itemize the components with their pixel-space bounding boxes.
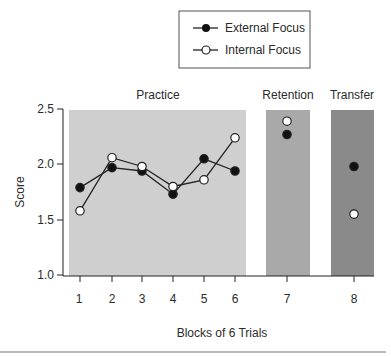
x-tick-label: 1 [76, 292, 83, 306]
y-tick-label: 2.0 [37, 157, 54, 171]
x-tick-label: 7 [284, 292, 291, 306]
data-point-internal [169, 182, 177, 190]
legend-box [179, 11, 310, 68]
data-point-external [231, 167, 239, 175]
panel-transfer [331, 110, 374, 276]
data-point-internal [283, 117, 291, 125]
y-tick-label: 2.5 [37, 102, 54, 116]
filled-circle-icon [202, 24, 210, 32]
x-tick-label: 8 [351, 292, 358, 306]
data-point-internal [231, 134, 239, 142]
data-point-internal [200, 176, 208, 184]
data-point-external [200, 155, 208, 163]
chart: External Focus Internal Focus Practice R… [0, 0, 391, 356]
x-tick-label: 5 [201, 292, 208, 306]
data-point-internal [76, 207, 84, 215]
y-tick-label: 1.5 [37, 213, 54, 227]
x-axis: 1 2 3 4 5 6 7 8 Blocks of 6 Trials [63, 276, 374, 340]
data-point-internal [350, 210, 358, 218]
legend-label-internal: Internal Focus [225, 43, 301, 57]
phase-label-practice: Practice [136, 88, 180, 102]
y-axis-label: Score [13, 176, 27, 208]
data-point-external [108, 164, 116, 172]
x-tick-label: 2 [109, 292, 116, 306]
legend-label-external: External Focus [225, 21, 305, 35]
x-tick-label: 3 [139, 292, 146, 306]
data-point-external [283, 130, 291, 138]
legend: External Focus Internal Focus [179, 11, 310, 68]
x-tick-label: 4 [170, 292, 177, 306]
open-circle-icon [202, 46, 210, 54]
phase-label-retention: Retention [262, 88, 313, 102]
y-tick-label: 1.0 [37, 268, 54, 282]
data-point-internal [108, 154, 116, 162]
panel-practice [69, 110, 246, 276]
data-point-internal [138, 162, 146, 170]
data-point-external [350, 162, 358, 170]
y-axis: 2.5 2.0 1.5 1.0 Score [13, 102, 63, 282]
x-tick-label: 6 [232, 292, 239, 306]
x-axis-label: Blocks of 6 Trials [177, 326, 268, 340]
phase-label-transfer: Transfer [330, 88, 374, 102]
data-point-external [76, 183, 84, 191]
